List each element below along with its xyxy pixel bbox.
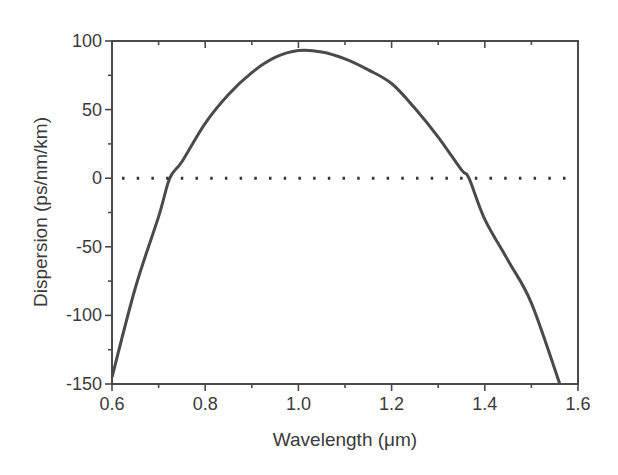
x-tick-label: 0.6 <box>99 394 124 414</box>
chart-canvas: 0.60.81.01.21.41.6 -150-100-50050100 Wav… <box>0 0 618 475</box>
y-tick-label: 50 <box>82 100 102 120</box>
y-tick-label: -100 <box>66 305 102 325</box>
dispersion-curve <box>112 50 560 384</box>
x-tick-labels: 0.60.81.01.21.41.6 <box>99 394 590 414</box>
y-tick-label: -150 <box>66 374 102 394</box>
y-tick-labels: -150-100-50050100 <box>66 31 102 394</box>
y-tick-label: 0 <box>92 168 102 188</box>
plot-frame <box>112 41 578 384</box>
x-tick-label: 1.2 <box>379 394 404 414</box>
y-axis-label: Dispersion (ps/nm/km) <box>30 117 51 307</box>
plot-area <box>112 50 572 384</box>
y-tick-label: -50 <box>76 237 102 257</box>
x-tick-label: 1.0 <box>286 394 311 414</box>
x-tick-label: 1.6 <box>565 394 590 414</box>
x-tick-label: 0.8 <box>193 394 218 414</box>
y-tick-label: 100 <box>72 31 102 51</box>
x-axis-label: Wavelength (μm) <box>273 429 417 450</box>
dispersion-chart: 0.60.81.01.21.41.6 -150-100-50050100 Wav… <box>0 0 618 475</box>
axes <box>112 41 578 384</box>
tick-marks <box>105 41 578 391</box>
x-tick-label: 1.4 <box>472 394 497 414</box>
